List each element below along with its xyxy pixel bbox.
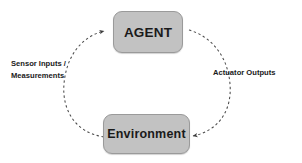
node-environment[interactable]: Environment [103,114,190,154]
edge-label-actuator-outputs: Actuator Outputs [213,67,275,79]
edge-label-actuator-outputs-line1: Actuator Outputs [213,67,275,79]
node-environment-label: Environment [107,127,186,141]
arc-environment-to-agent [64,31,104,137]
edge-label-sensor-inputs-line2: Measurements [11,70,66,82]
node-agent-label: AGENT [124,25,172,40]
edge-label-sensor-inputs: Sensor Inputs / Measurements [11,58,66,81]
node-agent[interactable]: AGENT [113,11,183,53]
edge-label-sensor-inputs-line1: Sensor Inputs / [11,58,66,70]
diagram-canvas: AGENT Environment Sensor Inputs / Measur… [0,0,302,163]
arc-agent-to-environment [189,30,230,136]
